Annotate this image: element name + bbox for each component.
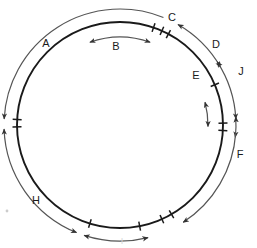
arc-b: [90, 37, 150, 42]
arc-label-b: B: [112, 40, 119, 52]
arc-diagram-figure: ABCDEJFHI: [0, 0, 257, 248]
arc-h: [4, 129, 76, 233]
arc-d: [217, 62, 236, 119]
arc-e: [205, 102, 208, 126]
arc-label-i: I: [121, 236, 124, 246]
arc-i: [84, 235, 148, 241]
arc-label-c: C: [168, 11, 176, 23]
tick-mark: [139, 222, 141, 231]
arc-label-d: D: [212, 38, 220, 50]
arc-label-a: A: [42, 37, 50, 49]
arc-label-h: H: [32, 194, 40, 206]
arc-label-e: E: [192, 69, 199, 81]
diagram-canvas: ABCDEJFHI: [0, 0, 257, 248]
arc-label-j: J: [238, 65, 244, 77]
arc-a: [4, 9, 163, 119]
annotation-arcs: [4, 9, 236, 241]
stray-speck: [6, 210, 9, 213]
arc-label-f: F: [237, 148, 244, 160]
main-circle: [17, 22, 223, 228]
